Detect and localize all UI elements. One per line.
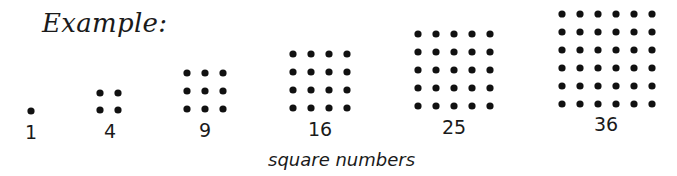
dot	[486, 48, 493, 55]
dot	[343, 104, 350, 111]
dot	[432, 84, 439, 91]
dot	[612, 28, 619, 35]
dot	[414, 66, 421, 73]
dot	[648, 82, 655, 89]
dot	[432, 30, 439, 37]
dot	[558, 28, 565, 35]
dot-grid-16	[289, 50, 350, 111]
dot	[307, 68, 314, 75]
dot-grid-9	[183, 69, 226, 112]
dot	[201, 87, 208, 94]
dot	[289, 50, 296, 57]
dot	[468, 30, 475, 37]
dot	[96, 106, 103, 113]
dot	[27, 107, 34, 114]
dot	[630, 46, 637, 53]
square-label-1: 1	[25, 121, 37, 143]
dot	[648, 28, 655, 35]
square-label-4: 4	[104, 120, 116, 142]
dot	[183, 87, 190, 94]
dot	[648, 46, 655, 53]
dot	[343, 86, 350, 93]
dot-grid-36	[558, 10, 655, 107]
dot	[414, 84, 421, 91]
dot	[96, 89, 103, 96]
dot	[594, 46, 601, 53]
dot	[219, 105, 226, 112]
dot	[343, 68, 350, 75]
dot	[114, 89, 121, 96]
dot	[558, 46, 565, 53]
dot	[486, 30, 493, 37]
dot	[558, 10, 565, 17]
dot	[486, 84, 493, 91]
dot	[414, 30, 421, 37]
dot	[343, 50, 350, 57]
dot	[325, 50, 332, 57]
dot	[630, 10, 637, 17]
square-label-9: 9	[199, 119, 211, 141]
dot	[648, 10, 655, 17]
dot-grid-1	[27, 107, 34, 114]
dot	[432, 48, 439, 55]
dot	[325, 104, 332, 111]
dot	[594, 10, 601, 17]
dot	[576, 28, 583, 35]
dot-grid-25	[414, 30, 493, 109]
dot	[468, 48, 475, 55]
dot	[630, 100, 637, 107]
caption: square numbers	[268, 149, 415, 170]
dot	[576, 100, 583, 107]
dot	[468, 66, 475, 73]
dot	[594, 82, 601, 89]
square-label-25: 25	[442, 116, 466, 138]
dot	[219, 69, 226, 76]
dot	[414, 102, 421, 109]
dot	[307, 104, 314, 111]
dot	[612, 82, 619, 89]
dot	[289, 68, 296, 75]
dot	[414, 48, 421, 55]
dot	[594, 64, 601, 71]
dot	[201, 105, 208, 112]
dot	[432, 66, 439, 73]
dot	[450, 30, 457, 37]
dot	[612, 46, 619, 53]
dot	[432, 102, 439, 109]
dot	[630, 82, 637, 89]
dot	[594, 28, 601, 35]
dot	[201, 69, 208, 76]
dot	[325, 86, 332, 93]
dot	[630, 64, 637, 71]
dot	[594, 100, 601, 107]
dot-grid-4	[96, 89, 121, 113]
dot	[289, 86, 296, 93]
dot	[183, 105, 190, 112]
dot	[183, 69, 190, 76]
dot	[558, 82, 565, 89]
dot	[648, 100, 655, 107]
dot	[450, 84, 457, 91]
dot	[468, 84, 475, 91]
dot	[450, 48, 457, 55]
dot	[612, 100, 619, 107]
dot	[612, 10, 619, 17]
dot	[114, 106, 121, 113]
dot	[576, 82, 583, 89]
dot	[558, 64, 565, 71]
dot	[576, 10, 583, 17]
dot	[307, 50, 314, 57]
dot	[325, 68, 332, 75]
dot	[648, 64, 655, 71]
dot	[450, 66, 457, 73]
dot	[630, 28, 637, 35]
dot	[468, 102, 475, 109]
dot	[612, 64, 619, 71]
dot	[219, 87, 226, 94]
dot	[450, 102, 457, 109]
dot	[486, 102, 493, 109]
square-label-16: 16	[308, 118, 332, 140]
dot	[289, 104, 296, 111]
square-label-36: 36	[594, 113, 618, 135]
dot	[576, 46, 583, 53]
